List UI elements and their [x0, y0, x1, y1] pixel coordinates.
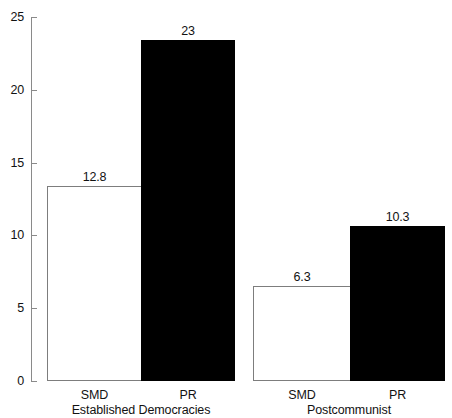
- y-axis-label-25: 25: [0, 11, 24, 24]
- y-axis-tick-0: [31, 381, 37, 382]
- y-axis-label-15: 15: [0, 157, 24, 170]
- y-axis-label-20-wrap: 20: [0, 84, 24, 97]
- y-axis-tick-20: [31, 90, 37, 91]
- y-axis-label-25-wrap: 25: [0, 11, 24, 24]
- y-axis-line: [31, 17, 32, 381]
- y-axis-tick-15: [31, 163, 37, 164]
- bar-postcommunist-pr: [350, 226, 445, 381]
- x-axis-label-established-democracies-pr: PR: [141, 389, 235, 402]
- y-axis-label-0: 0: [0, 375, 24, 388]
- y-axis-label-20: 20: [0, 84, 24, 97]
- y-axis-label-10-wrap: 10: [0, 229, 24, 242]
- y-axis-label-5: 5: [0, 302, 24, 315]
- bar-value-postcommunist-pr: 10.3: [350, 211, 445, 224]
- y-axis-tick-25: [31, 17, 37, 18]
- y-axis-tick-10: [31, 235, 37, 236]
- x-axis-group-label-postcommunist: Postcommunist: [253, 404, 445, 417]
- x-axis-label-postcommunist-smd: SMD: [253, 389, 351, 402]
- x-axis-group-label-established-democracies: Established Democracies: [47, 404, 235, 417]
- bar-chart: 25 20 15 10 5 0 12.8 23 6.3 10.3 SMD PR …: [0, 0, 452, 418]
- y-axis-tick-5: [31, 308, 37, 309]
- bar-value-established-democracies-pr: 23: [141, 25, 235, 38]
- bar-value-established-democracies-smd: 12.8: [47, 171, 142, 184]
- x-axis-label-postcommunist-pr: PR: [350, 389, 445, 402]
- y-axis-label-15-wrap: 15: [0, 157, 24, 170]
- bar-postcommunist-smd: [253, 286, 351, 381]
- bar-established-democracies-pr: [141, 40, 235, 381]
- y-axis-label-0-wrap: 0: [0, 375, 24, 388]
- y-axis-label-10: 10: [0, 229, 24, 242]
- y-axis-label-5-wrap: 5: [0, 302, 24, 315]
- x-axis-label-established-democracies-smd: SMD: [47, 389, 142, 402]
- bar-established-democracies-smd: [47, 186, 142, 381]
- bar-value-postcommunist-smd: 6.3: [253, 271, 351, 284]
